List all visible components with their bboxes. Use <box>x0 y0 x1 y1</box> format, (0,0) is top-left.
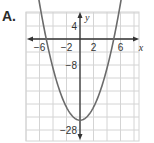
svg-text:6: 6 <box>118 42 124 53</box>
svg-text:−6: −6 <box>34 42 46 53</box>
svg-text:4: 4 <box>71 21 77 32</box>
svg-text:−2: −2 <box>61 42 73 53</box>
svg-text:y: y <box>84 12 90 23</box>
axes <box>27 12 139 140</box>
svg-text:2: 2 <box>91 42 97 53</box>
svg-text:−28: −28 <box>60 125 77 136</box>
parabola-graph: −6−2264−8−28xy <box>0 0 154 143</box>
svg-text:−8: −8 <box>66 60 78 71</box>
svg-text:x: x <box>138 42 144 53</box>
grid-lines <box>26 12 139 141</box>
